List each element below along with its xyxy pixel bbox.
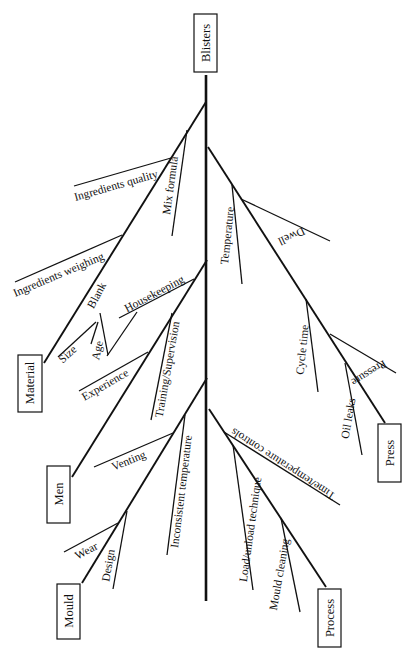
cause-line-temperature [232,185,242,284]
category-box-men: Men [47,466,70,523]
bone-material [44,102,206,363]
cause-label-age: Age [89,340,106,361]
category-box-mould: Mould [57,584,80,639]
cause-label-size: Size [56,343,79,365]
category-box-men-label: Men [52,482,66,506]
fishbone-diagram: Ingredients qualityMix formulaIngredient… [0,0,415,651]
category-box-material: Material [18,355,42,412]
cause-label-dwell: Dwell [276,225,307,248]
category-box-press: Press [378,424,401,482]
category-box-material-label: Material [23,361,37,404]
cause-labels: Ingredients qualityMix formulaIngredient… [11,156,389,612]
cause-label-mould-cleaning: Mould cleaning [267,537,292,611]
cause-label-temperature: Temperature [218,206,237,265]
effect-box-blisters-label: Blisters [199,24,213,62]
category-box-process: Process [318,589,341,647]
cause-label-training-supervision: Training/Supervision [153,320,183,418]
cause-label-experience: Experience [80,366,131,403]
cause-label-pressure: Pressure [349,358,388,389]
category-box-press-label: Press [383,440,397,467]
category-box-mould-label: Mould [62,594,76,628]
category-box-process-label: Process [323,599,337,637]
cause-label-wear: Wear [73,539,100,561]
cause-label-load-unload-technique: Load/unload technique [237,476,265,582]
cause-label-blank: Blank [85,280,109,310]
cause-label-mix-formula: Mix formula [160,156,180,216]
cause-line-blank [107,312,137,356]
bone-process [209,409,326,587]
cause-label-inconsistent-temperature: Inconsistent temperature [168,435,195,549]
cause-label-cycle-time: Cycle time [293,324,311,375]
effect-box-blisters: Blisters [194,14,217,72]
